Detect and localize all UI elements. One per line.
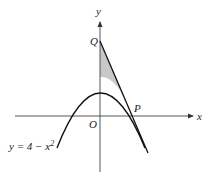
curve-equation-label: y = 4 − x2 xyxy=(8,139,54,152)
point-q-label: Q xyxy=(90,35,98,47)
diagram-canvas: y x O Q P y = 4 − x2 xyxy=(0,0,211,176)
point-p-label: P xyxy=(133,102,141,114)
origin-label: O xyxy=(89,118,97,130)
x-axis-label: x xyxy=(196,110,202,122)
equation-text: y = 4 − x xyxy=(8,140,50,152)
equation-exponent: 2 xyxy=(50,139,54,148)
tangent-line xyxy=(100,41,148,153)
y-axis-label: y xyxy=(95,5,101,17)
parabola-curve xyxy=(57,93,145,148)
